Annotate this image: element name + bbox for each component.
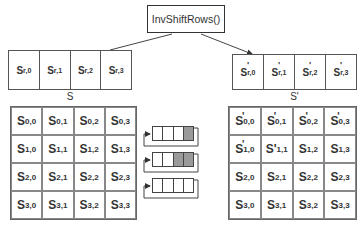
- prime-mark: ': [278, 60, 280, 70]
- state-cell: S3,3: [105, 191, 136, 219]
- row-cell: 'Sr,2: [295, 55, 326, 89]
- cell-base: S: [48, 142, 56, 156]
- shifted-byte-cell: [174, 153, 184, 166]
- cell-subscript: 3,1: [56, 201, 67, 210]
- cell-subscript: 0,1: [56, 117, 67, 126]
- cell-base: S: [235, 170, 243, 184]
- input-row-label: S: [8, 91, 132, 102]
- cell-subscript: 2,1: [275, 173, 286, 182]
- cell-base: S: [299, 170, 307, 184]
- input-state-grid: S0,0S0,1S0,2S0,3S1,0S1,1S1,2S1,3S2,0S2,1…: [10, 106, 137, 220]
- cell-base: S: [47, 65, 54, 76]
- state-cell: S0,3: [105, 107, 136, 135]
- cell-subscript: 2,3: [339, 173, 350, 182]
- cell-subscript: 2,1: [56, 173, 67, 182]
- row-cell: Sr,0: [9, 51, 40, 89]
- state-cell: S0,0: [11, 107, 42, 135]
- cell-base: S: [48, 170, 56, 184]
- state-cell: 'S0,0: [229, 107, 261, 135]
- cell-base: S: [17, 142, 25, 156]
- cell-subscript: 0,2: [88, 117, 99, 126]
- state-cell: S0,1: [42, 107, 73, 135]
- byte-cell: [163, 127, 173, 140]
- cell-subscript: r,3: [115, 67, 123, 74]
- state-cell: S0,2: [74, 107, 105, 135]
- byte-cell: [184, 179, 193, 192]
- cell-base: S: [299, 142, 307, 156]
- state-cell: 'S1,0: [229, 135, 261, 163]
- state-cell: S2,2: [293, 163, 325, 191]
- output-row-label: S': [232, 91, 357, 102]
- output-state-grid: 'S0,0'S0,1'S0,2'S0,3'S1,0S'1,1S1,2S1,3S2…: [228, 106, 357, 220]
- state-cell: S'1,1: [261, 135, 293, 163]
- shift-register-3: [152, 178, 194, 193]
- row-cell: Sr,1: [40, 51, 71, 89]
- state-cell: S1,2: [74, 135, 105, 163]
- cell-subscript: r,0: [23, 67, 31, 74]
- cell-base: S: [109, 65, 116, 76]
- state-cell: 'S0,2: [293, 107, 325, 135]
- byte-cell: [174, 127, 184, 140]
- cell-subscript: 0,1: [275, 117, 286, 126]
- state-cell: 'S0,3: [324, 107, 356, 135]
- state-cell: S2,2: [74, 163, 105, 191]
- prime-mark: ': [309, 60, 311, 70]
- byte-cell: [153, 153, 163, 166]
- byte-cell: [163, 153, 173, 166]
- cell-subscript: 3,3: [119, 201, 130, 210]
- invshiftrows-title-box: InvShiftRows(): [147, 5, 225, 33]
- cell-base: S: [267, 170, 275, 184]
- state-cell: S1,2: [293, 135, 325, 163]
- prime-mark: ': [340, 60, 342, 70]
- state-cell: S1,0: [11, 135, 42, 163]
- prime-mark: ': [247, 60, 249, 70]
- cell-subscript: 0,0: [243, 117, 254, 126]
- line-to-input-row: [110, 34, 172, 50]
- row-cell: 'Sr,3: [326, 55, 356, 89]
- cell-subscript: 0,0: [25, 117, 36, 126]
- cell-base: S': [266, 142, 277, 156]
- cell-base: S: [331, 198, 339, 212]
- row-cell: 'Sr,0: [233, 55, 264, 89]
- state-cell: S3,1: [42, 191, 73, 219]
- cell-subscript: 2,0: [25, 173, 36, 182]
- state-cell: S1,3: [324, 135, 356, 163]
- byte-cell: [163, 179, 173, 192]
- state-cell: S3,2: [293, 191, 325, 219]
- cell-base: S: [267, 198, 275, 212]
- cell-base: S: [80, 170, 88, 184]
- cell-base: S: [17, 170, 25, 184]
- cell-subscript: 2,3: [119, 173, 130, 182]
- cell-base: S: [111, 142, 119, 156]
- input-row-box: Sr,0Sr,1Sr,2Sr,3: [8, 50, 132, 90]
- state-cell: S3,0: [11, 191, 42, 219]
- arrow-to-output-row: [201, 34, 252, 54]
- cell-subscript: 3,0: [243, 201, 254, 210]
- state-cell: S2,0: [229, 163, 261, 191]
- shifted-byte-cell: [184, 127, 193, 140]
- cell-base: S: [16, 65, 23, 76]
- cell-base: S: [48, 198, 56, 212]
- state-cell: S3,0: [229, 191, 261, 219]
- cell-base: S: [331, 170, 339, 184]
- cell-subscript: 1,1: [56, 145, 67, 154]
- cell-subscript: 3,3: [339, 201, 350, 210]
- cell-base: S: [48, 114, 56, 128]
- cell-subscript: 2,0: [243, 173, 254, 182]
- cell-subscript: 1,1: [276, 145, 287, 154]
- cell-subscript: 1,3: [119, 145, 130, 154]
- cell-base: S: [80, 198, 88, 212]
- cell-subscript: 1,2: [88, 145, 99, 154]
- shift-register-2: [152, 152, 194, 167]
- cell-subscript: r,2: [85, 67, 93, 74]
- cell-subscript: 2,2: [88, 173, 99, 182]
- cell-base: S: [111, 198, 119, 212]
- shift-register-1: [152, 126, 194, 141]
- row-cell: Sr,2: [71, 51, 102, 89]
- state-cell: S2,3: [105, 163, 136, 191]
- cell-subscript: 1,2: [307, 145, 318, 154]
- state-cell: S3,2: [74, 191, 105, 219]
- cell-base: S: [78, 65, 85, 76]
- cell-base: S: [17, 198, 25, 212]
- cell-base: S: [235, 198, 243, 212]
